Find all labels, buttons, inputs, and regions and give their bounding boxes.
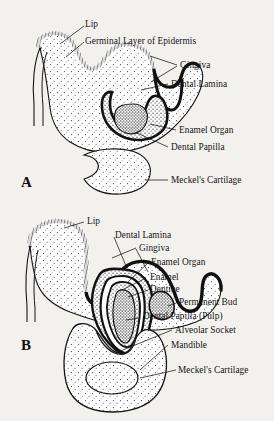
panel-letter-b: B (21, 337, 31, 354)
label-dentine-b: Dentine (150, 284, 180, 294)
panel-a-dental-papilla (114, 104, 147, 134)
label-dental-lamina-a: Dental Lamina (171, 79, 227, 89)
label-lip-b: Lip (87, 216, 100, 226)
label-meckels-cartilage-a: Meckel's Cartilage (171, 175, 241, 185)
panel-letter-a: A (21, 174, 32, 191)
label-alveolar-socket-b: Alveolar Socket (175, 325, 236, 335)
label-gingiva-b: Gingiva (139, 243, 169, 253)
label-enamel-b: Enamel (150, 272, 179, 282)
label-meckels-cartilage-b: Meckel's Cartilage (178, 365, 248, 375)
label-germinal-layer-of-epidermis-a: Germinal Layer of Epidermis (85, 36, 196, 46)
panel-a-lip-fold (33, 48, 40, 126)
label-dental-papilla-a: Dental Papilla (171, 142, 225, 152)
leader-gingiva-b1 (112, 248, 136, 258)
leader-lamina-b (114, 237, 126, 266)
anatomy-drawing (0, 0, 274, 421)
label-enamel-organ-a: Enamel Organ (179, 125, 233, 135)
panel-a-drawing (33, 26, 202, 194)
label-gingiva-a: Gingiva (180, 60, 210, 70)
panel-a-meckels-cartilage (84, 149, 150, 194)
tooth-development-figure: A B Lip Germinal Layer of Epidermis Ging… (0, 0, 274, 421)
label-permanent-bud-b: Permanent Bud (179, 297, 237, 307)
label-lip-a: Lip (85, 19, 98, 29)
label-mandible-b: Mandible (171, 340, 207, 350)
panel-b-meckels-cartilage (86, 362, 138, 394)
label-dental-lamina-b: Dental Lamina (115, 230, 171, 240)
label-enamel-organ-b: Enamel Organ (151, 257, 205, 267)
label-dental-papilla-pulp-b: Dental Papilla (Pulp) (143, 311, 223, 321)
panel-b-lip-fold (26, 246, 30, 322)
